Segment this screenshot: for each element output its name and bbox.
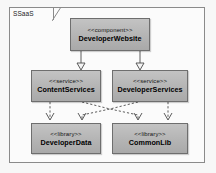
node-developer-website[interactable]: <<component>> DeveloperWebsite xyxy=(70,18,150,51)
node-stereotype: <<library>> xyxy=(134,130,165,138)
node-stereotype: <<library>> xyxy=(50,130,81,138)
node-name: DeveloperWebsite xyxy=(79,34,142,44)
node-name: DeveloperData xyxy=(41,138,92,148)
node-stereotype: <<service>> xyxy=(49,77,83,85)
node-stereotype: <<service>> xyxy=(133,77,167,85)
package-label: SSaaS xyxy=(13,8,34,19)
node-name: DeveloperServices xyxy=(117,85,182,95)
node-stereotype: <<component>> xyxy=(87,26,132,34)
node-content-services[interactable]: <<service>> ContentServices xyxy=(31,70,101,102)
node-developer-services[interactable]: <<service>> DeveloperServices xyxy=(112,70,188,102)
package-tab-slant xyxy=(52,7,62,21)
node-name: CommonLib xyxy=(129,138,171,148)
node-developer-data[interactable]: <<library>> DeveloperData xyxy=(31,123,101,154)
node-common-lib[interactable]: <<library>> CommonLib xyxy=(112,123,188,154)
node-name: ContentServices xyxy=(37,85,94,95)
diagram-canvas: SSaaS xyxy=(0,0,216,173)
